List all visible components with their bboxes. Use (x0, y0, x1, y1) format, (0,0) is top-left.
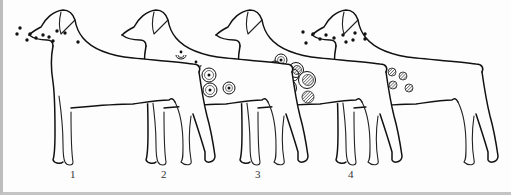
particle-dot (332, 36, 335, 39)
lesion-hatched (399, 72, 407, 80)
particle-dot (324, 33, 327, 36)
lesion-hatched (405, 84, 413, 92)
stage-label-4: 4 (348, 168, 354, 180)
particle-dot (34, 36, 37, 39)
lesion-hatched (389, 81, 397, 89)
stage-label-3: 3 (255, 168, 261, 180)
particle-dot (51, 39, 54, 42)
lesion-hatched (302, 91, 314, 103)
particle-dot (55, 29, 58, 32)
particle-dot (76, 40, 79, 43)
lesion-ring-dot (202, 68, 216, 82)
lesion-hatched (388, 68, 396, 76)
particle-dot (15, 32, 18, 35)
stage-label-2: 2 (161, 168, 167, 180)
particle-dot (41, 33, 44, 36)
particle-dot (63, 31, 66, 34)
lesion-ring-hatched (299, 72, 316, 89)
dog-illustration-canvas (3, 0, 511, 195)
particle-dot (351, 38, 354, 41)
dog-stage-1 (29, 10, 215, 165)
particle-dot (304, 41, 307, 44)
lesion-ring-dot (203, 83, 217, 97)
particle-dot (363, 32, 366, 35)
particle-dot (301, 30, 304, 33)
particle-dot (28, 32, 31, 35)
particle-dot (18, 26, 21, 29)
dog-lesion-stages-figure: 1 2 3 4 (0, 0, 511, 195)
stage-label-1: 1 (70, 168, 76, 180)
particle-dot (25, 38, 28, 41)
particle-dot (311, 32, 314, 35)
particle-dot (318, 37, 321, 40)
particle-dot (341, 33, 344, 36)
particle-dot (353, 31, 356, 34)
particle-dot (363, 37, 366, 40)
particle-dot (47, 35, 50, 38)
lesion-ring-dot (223, 82, 235, 94)
particle-dot (344, 40, 347, 43)
